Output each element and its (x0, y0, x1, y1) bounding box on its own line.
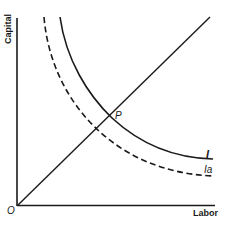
y-axis-label: Capital (3, 14, 13, 44)
curve-ia-label: Ia (204, 164, 213, 175)
point-p-label: P (115, 110, 122, 121)
x-axis-label: Labor (193, 208, 218, 218)
expansion-ray (18, 17, 210, 205)
isoquant-diagram: Capital Labor O P I Ia (0, 0, 230, 231)
origin-label: O (7, 205, 15, 216)
diagram-canvas: Capital Labor O P I Ia (0, 0, 230, 231)
